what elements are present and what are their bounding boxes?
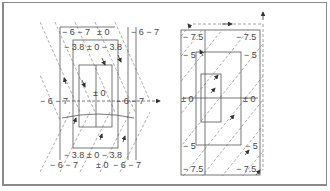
- right-label-mid-left: ± 0: [181, 94, 193, 104]
- left-label-mid-right: − 6 − 7: [116, 96, 144, 106]
- left-diagram: − 6 − 7 ± 0 − 6 − 7 − 3.8 ± 0 − 3.8 ± 0 …: [20, 22, 160, 172]
- left-label-center: ± 0: [93, 88, 105, 98]
- left-label-top-outer-right: − 6 − 7: [131, 27, 159, 37]
- right-label-lower-right: − 5: [245, 141, 258, 151]
- right-hatch-lines: [150, 20, 310, 185]
- right-label-lower-left: − 5: [183, 141, 196, 151]
- right-label-mid-right: ± 0: [243, 94, 255, 104]
- left-label-bottom-inner: − 3.8 ± 0 − 3.8: [64, 150, 122, 160]
- left-label-top-outer-mid: ± 0: [97, 27, 109, 37]
- left-label-top-outer-left: − 6 − 7: [62, 27, 90, 37]
- right-label-bottom-left: − 7.5: [183, 164, 203, 174]
- left-label-bottom-outer-mid: ± 0: [96, 160, 108, 170]
- right-label-top-right: − 7.5: [236, 32, 256, 42]
- right-label-upper-right: − 5: [244, 50, 257, 60]
- right-diagram: − 7.5 − 7.5 − 5 − 5 ± 0 ± 0 − 5 − 5 − 7.…: [150, 12, 310, 185]
- left-label-top-inner: − 3.8 ± 0 − 3.8: [64, 42, 122, 52]
- left-label-bottom-outer-left: − 6 − 7: [50, 160, 78, 170]
- left-label-bottom-outer-right: − 6 − 7: [113, 160, 141, 170]
- right-label-top-left: − 7.5: [183, 32, 203, 42]
- left-label-mid-left: − 6 − 7: [40, 96, 68, 106]
- right-label-upper-left: − 5: [183, 50, 196, 60]
- right-label-bottom-right: − 7.5: [236, 164, 256, 174]
- diagram-canvas: − 6 − 7 ± 0 − 6 − 7 − 3.8 ± 0 − 3.8 ± 0 …: [0, 0, 330, 191]
